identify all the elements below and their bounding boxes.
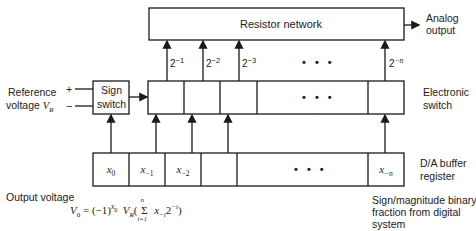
weight-2-n: 2−n — [389, 56, 403, 69]
buffer-register-label-1: D/A buffer — [420, 157, 467, 169]
switch-ellipsis: • • • — [302, 91, 335, 103]
weight-2-2: 2−2 — [206, 56, 220, 69]
register-cell-x0: x0 — [93, 163, 129, 178]
analog-output-label-2: output — [426, 24, 455, 36]
analog-output-label-1: Analog — [426, 12, 459, 24]
electronic-switch-label-2: switch — [423, 99, 452, 111]
source-note-2: fraction from digital — [372, 206, 461, 218]
sign-switch-label-2: switch — [97, 98, 126, 110]
register-cell-x-n: x−n — [368, 163, 404, 178]
electronic-switch-label-1: Electronic — [423, 86, 469, 98]
output-voltage-label: Output voltage — [6, 191, 74, 203]
weight-2-3: 2−3 — [242, 56, 256, 69]
reference-label-2: voltage VR — [6, 99, 53, 116]
plus-terminal: + — [66, 83, 72, 95]
source-note-3: system — [372, 218, 405, 230]
register-cell-x-1: x−1 — [129, 163, 165, 178]
sign-switch-label-1: Sign — [101, 84, 122, 96]
electronic-switch-box — [148, 81, 404, 114]
resistor-network-label: Resistor network — [240, 18, 322, 30]
weight-2-1: 2−1 — [170, 56, 184, 69]
output-voltage-formula: V0 = (−1)x0 VR(nΣi=1 x−i2−i) — [70, 202, 182, 219]
reference-label-1: Reference — [8, 86, 56, 98]
source-note-1: Sign/magnitude binary — [372, 194, 476, 206]
buffer-register-label-2: register — [420, 170, 455, 182]
weights-ellipsis: • • • — [302, 56, 335, 68]
register-cell-x-2: x−2 — [165, 163, 201, 178]
minus-terminal: − — [66, 100, 72, 112]
register-ellipsis: • • • — [294, 163, 327, 175]
